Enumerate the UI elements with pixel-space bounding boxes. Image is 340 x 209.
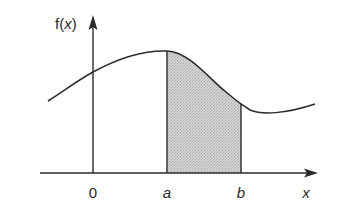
integral-area-diagram: f(x) 0 a b x (0, 0, 340, 209)
lower-bound-label-a: a (163, 184, 171, 201)
origin-label: 0 (89, 184, 97, 201)
x-axis-label: x (301, 184, 310, 201)
upper-bound-label-b: b (237, 184, 245, 201)
y-axis-label: f(x) (55, 15, 77, 32)
shaded-area-region (167, 51, 241, 173)
